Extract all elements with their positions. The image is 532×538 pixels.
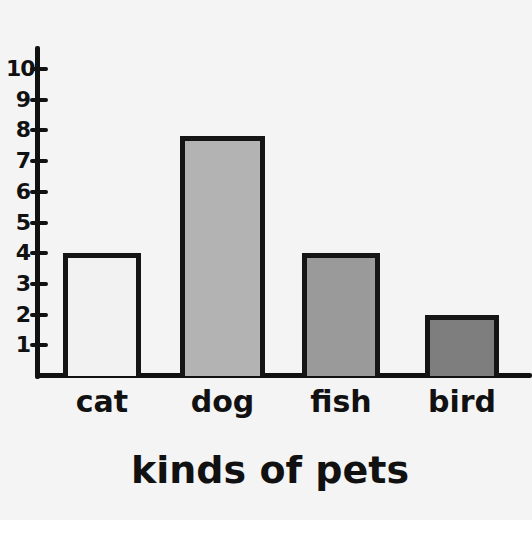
y-tick-label: 9: [6, 89, 30, 111]
y-tick-label: 2: [6, 304, 30, 326]
x-axis-title: kinds of pets: [120, 448, 420, 492]
y-tick-label: 6: [6, 181, 30, 203]
y-tick: [30, 221, 48, 225]
y-tick-label: 10: [6, 58, 30, 80]
y-tick-label: 8: [6, 119, 30, 141]
y-tick: [30, 128, 48, 132]
y-tick-label: 5: [6, 212, 30, 234]
y-tick: [30, 190, 48, 194]
bar-bird: [425, 315, 499, 376]
y-tick-label: 3: [6, 273, 30, 295]
bar-cat: [63, 253, 141, 376]
y-tick-label: 4: [6, 242, 30, 264]
y-tick: [30, 282, 48, 286]
y-tick: [30, 159, 48, 163]
x-category-label-fish: fish: [287, 385, 395, 419]
y-tick: [30, 251, 48, 255]
y-tick: [30, 98, 48, 102]
x-category-label-cat: cat: [48, 385, 156, 419]
x-category-label-dog: dog: [165, 385, 280, 419]
y-tick: [30, 343, 48, 347]
y-tick-label: 1: [6, 334, 30, 356]
bar-fish: [302, 253, 380, 376]
x-category-label-bird: bird: [410, 385, 514, 419]
y-tick-label: 7: [6, 150, 30, 172]
bar-chart: 12345678910 catdogfishbird kinds of pets: [0, 0, 532, 520]
y-tick: [30, 313, 48, 317]
y-axis: [35, 46, 40, 379]
page-margin: [0, 520, 532, 538]
bar-dog: [180, 136, 265, 376]
